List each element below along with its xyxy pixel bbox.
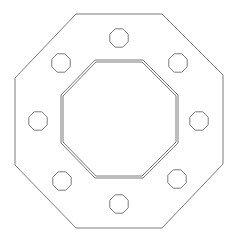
bolt-hole-right xyxy=(190,112,208,130)
bolt-hole-bottom xyxy=(110,195,128,213)
outer-octagon-outline xyxy=(15,14,223,228)
bolt-hole-bottom-right xyxy=(168,170,186,188)
bolt-hole-top-left xyxy=(52,54,70,72)
inner-octagon-outer-outline xyxy=(61,60,178,178)
bolt-hole-top-right xyxy=(169,54,187,72)
inner-octagon-inner-outline xyxy=(63,62,176,176)
bolt-holes-group xyxy=(29,29,208,213)
bolt-hole-left xyxy=(29,112,47,130)
bolt-hole-top xyxy=(110,29,128,47)
bolt-hole-bottom-left xyxy=(53,172,71,190)
flange-drawing xyxy=(0,0,232,240)
